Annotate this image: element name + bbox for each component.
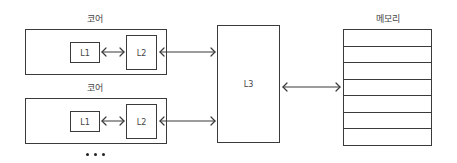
connection-arrows	[0, 0, 457, 163]
arrow-core1-l2-l3	[160, 48, 215, 56]
arrow-l3-memory	[283, 83, 340, 91]
arrow-core2-l1-l2	[102, 117, 124, 125]
arrow-core1-l1-l2	[102, 48, 124, 56]
arrow-core2-l2-l3	[160, 117, 215, 125]
